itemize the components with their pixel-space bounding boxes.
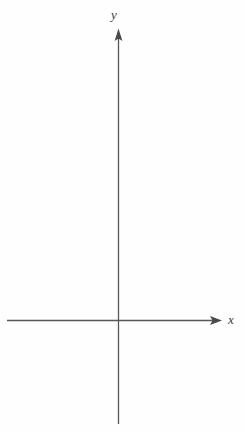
y-axis-label: y [111, 8, 117, 21]
coordinate-plane-figure: y x [0, 0, 244, 432]
x-axis-label: x [228, 313, 234, 326]
axes-drawing [0, 0, 244, 432]
